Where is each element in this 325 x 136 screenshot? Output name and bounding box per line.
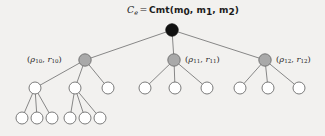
tree-node-l2-a [29,82,41,94]
edge-group [22,30,299,118]
tree-node-l2-b [69,82,81,94]
leaf-node-l3-e [79,112,91,124]
tree-node-l2-g [234,82,246,94]
paren-close: ) [217,54,220,64]
commitment-tree-figure: Ce=Cmt(m0, m1, m2) (ρ10, r10) (ρ11, r11)… [0,0,325,136]
r-subscript: 11 [209,58,216,64]
level1-label-rho-r-11: (ρ11, r11) [185,55,220,65]
level1-label-rho-r-12: (ρ12, r12) [276,55,311,65]
tree-node-l2-f [201,82,213,94]
r-subscript: 10 [51,58,58,64]
root-label-close-paren: ) [235,5,239,15]
root-label-arg1: m [196,5,206,15]
tree-node-l2-i [293,82,305,94]
root-node [166,24,178,36]
tree-node-l2-e [169,82,181,94]
tree-graphics [0,0,325,136]
leaf-node-l3-c [46,112,58,124]
level1-node-rho-r-10 [79,54,91,66]
leaf-node-l3-f [94,112,106,124]
tree-node-l2-c [102,82,114,94]
edge-root-to-rho-r-10 [85,30,172,60]
leaf-node-l3-b [31,112,43,124]
level1-label-rho-r-10: (ρ10, r10) [27,55,62,65]
leaf-node-l3-a [16,112,28,124]
paren-close: ) [308,54,311,64]
root-label-equals: = [138,4,149,15]
root-label-function: Cmt [149,5,170,15]
level1-node-rho-r-12 [259,54,271,66]
tree-node-l2-d [139,82,151,94]
root-label: Ce=Cmt(m0, m1, m2) [127,5,239,17]
paren-close: ) [59,54,62,64]
r-subscript: 12 [300,58,307,64]
level1-node-rho-r-11 [168,54,180,66]
leaf-node-l3-d [64,112,76,124]
root-label-comma1: , [212,5,219,15]
root-label-arg0: m [174,5,184,15]
tree-node-l2-h [262,82,274,94]
